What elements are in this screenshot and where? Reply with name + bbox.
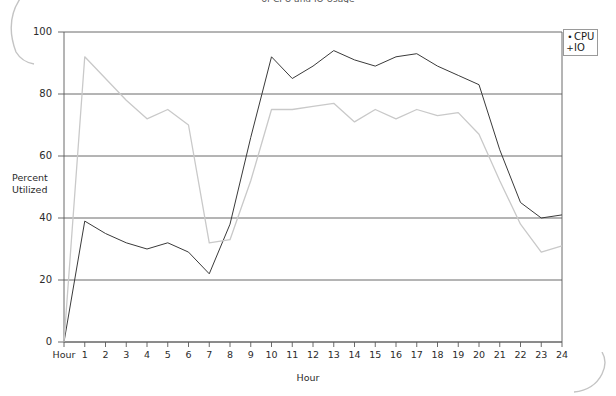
x-tick-label-origin: Hour xyxy=(53,349,76,360)
x-tick-label-21: 21 xyxy=(494,349,506,360)
x-axis-label: Hour xyxy=(0,372,616,383)
y-tick-label-60: 60 xyxy=(18,150,52,161)
y-axis-label-line1: Percent xyxy=(12,172,60,184)
x-tick-label-3: 3 xyxy=(123,349,129,360)
series-line-io xyxy=(64,57,562,342)
legend-label-cpu: CPU xyxy=(574,31,594,42)
x-tick-label-8: 8 xyxy=(227,349,233,360)
plus-marker-icon: + xyxy=(566,43,574,53)
y-tick-label-80: 80 xyxy=(18,88,52,99)
chart-legend: • CPU + IO xyxy=(563,29,598,56)
x-tick-label-11: 11 xyxy=(286,349,298,360)
x-tick-label-9: 9 xyxy=(248,349,254,360)
x-tick-label-16: 16 xyxy=(390,349,402,360)
gridlines xyxy=(64,32,562,342)
x-tick-label-17: 17 xyxy=(411,349,423,360)
x-tick-label-6: 6 xyxy=(185,349,191,360)
y-tick-label-100: 100 xyxy=(18,26,52,37)
cpu-io-usage-chart: of CPU and IO Usage Percent Utilized Hou… xyxy=(0,0,616,396)
legend-item-cpu: • CPU xyxy=(566,31,594,42)
x-tick-label-22: 22 xyxy=(514,349,526,360)
y-tick-label-0: 0 xyxy=(18,336,52,347)
y-tick-label-20: 20 xyxy=(18,274,52,285)
x-tick-label-5: 5 xyxy=(165,349,171,360)
x-tick-label-18: 18 xyxy=(431,349,443,360)
x-tick-label-23: 23 xyxy=(535,349,547,360)
x-tick-label-19: 19 xyxy=(452,349,464,360)
legend-label-io: IO xyxy=(574,42,585,53)
dot-marker-icon: • xyxy=(566,32,574,42)
x-tick-label-10: 10 xyxy=(265,349,277,360)
plot-area xyxy=(0,0,616,396)
x-tick-label-7: 7 xyxy=(206,349,212,360)
x-tick-label-1: 1 xyxy=(82,349,88,360)
x-tick-label-14: 14 xyxy=(348,349,360,360)
y-axis-label-line2: Utilized xyxy=(12,184,60,196)
x-tick-label-24: 24 xyxy=(556,349,568,360)
x-tick-label-15: 15 xyxy=(369,349,381,360)
x-tick-label-20: 20 xyxy=(473,349,485,360)
legend-item-io: + IO xyxy=(566,42,594,53)
x-tick-label-2: 2 xyxy=(102,349,108,360)
x-tick-label-13: 13 xyxy=(328,349,340,360)
y-tick-label-40: 40 xyxy=(18,212,52,223)
axis-lines xyxy=(58,32,562,347)
x-tick-label-4: 4 xyxy=(144,349,150,360)
y-axis-label: Percent Utilized xyxy=(12,172,60,196)
x-tick-label-12: 12 xyxy=(307,349,319,360)
